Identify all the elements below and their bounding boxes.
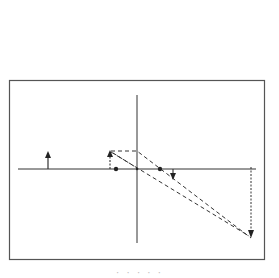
object-arrow-far-icon xyxy=(45,151,51,169)
lens-center-dot xyxy=(136,168,138,170)
image-arrow-small-icon xyxy=(170,169,176,180)
image-arrow-large-icon xyxy=(248,167,254,238)
ray-parallel xyxy=(111,151,251,238)
ray-diagram xyxy=(0,0,279,278)
ray-focal xyxy=(113,153,137,168)
caption: · · · · · xyxy=(0,266,279,278)
light-rays xyxy=(111,151,251,238)
focal-point-right xyxy=(158,167,162,171)
focal-point-left xyxy=(114,167,118,171)
